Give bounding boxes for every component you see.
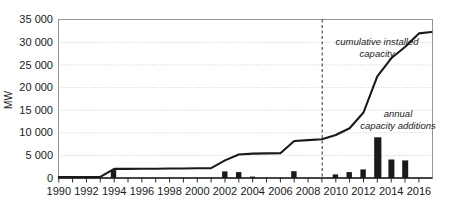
additions-annotation: annual capacity additions	[360, 108, 436, 131]
x-axis-labels: 1990 1992 1994 1996 1998 2000 2002 2004 …	[47, 185, 432, 197]
bar-2011	[347, 172, 352, 178]
capacity-chart: 0 5 000 10 000 15 000 20 000 25 000 30 0…	[0, 0, 460, 212]
bar-2013	[374, 137, 381, 178]
y-tick-label-20000: 20 000	[19, 81, 53, 93]
y-tick-label-10000: 10 000	[19, 126, 53, 138]
x-tick-label-1992: 1992	[74, 185, 98, 197]
x-tick-label-2016: 2016	[407, 185, 431, 197]
x-tick-label-1994: 1994	[102, 185, 126, 197]
y-tick-label-5000: 5 000	[25, 149, 53, 161]
cumulative-annotation-line2: capacity	[360, 48, 396, 59]
y-tick-label-0: 0	[47, 172, 53, 184]
additions-annotation-line2: capacity additions	[360, 120, 436, 131]
y-tick-label-15000: 15 000	[19, 104, 53, 116]
x-tick-label-2008: 2008	[296, 185, 320, 197]
y-tick-label-25000: 25 000	[19, 59, 53, 71]
x-tick-label-2002: 2002	[213, 185, 237, 197]
x-tick-label-1990: 1990	[47, 185, 71, 197]
x-tick-label-2004: 2004	[240, 185, 264, 197]
y-tick-label-30000: 30 000	[19, 36, 53, 48]
y-axis-title: MW	[3, 91, 14, 109]
x-tick-label-1996: 1996	[130, 185, 154, 197]
bars-annual-capacity-additions	[111, 137, 408, 178]
x-tick-label-2006: 2006	[268, 185, 292, 197]
x-tick-label-2000: 2000	[185, 185, 209, 197]
x-tick-label-2012: 2012	[351, 185, 375, 197]
additions-annotation-line1: annual	[384, 108, 413, 119]
x-tick-label-2010: 2010	[324, 185, 348, 197]
x-tick-label-2014: 2014	[379, 185, 403, 197]
bar-2007	[291, 171, 296, 178]
y-axis-labels: 0 5 000 10 000 15 000 20 000 25 000 30 0…	[19, 13, 53, 183]
bar-2014	[388, 160, 394, 179]
cumulative-annotation-line1: cumulative installed	[336, 36, 420, 47]
chart-container: 0 5 000 10 000 15 000 20 000 25 000 30 0…	[0, 0, 460, 212]
bar-2003	[236, 172, 241, 178]
y-tick-label-35000: 35 000	[19, 13, 53, 25]
bar-2002	[222, 171, 227, 178]
x-axis-tick-marks	[59, 178, 419, 183]
cumulative-annotation: cumulative installed capacity	[336, 36, 420, 59]
bar-2012	[360, 169, 365, 178]
bar-2015	[402, 160, 408, 178]
x-tick-label-1998: 1998	[157, 185, 181, 197]
